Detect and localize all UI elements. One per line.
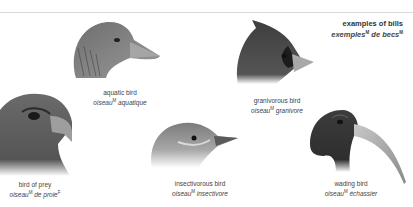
title-french: exemplesM de becsM [331, 28, 403, 39]
caption-insectivorous: insectivorous bird oiseauM insectivore [160, 180, 240, 198]
caption-aquatic: aquatic bird oiseauM aquatique [80, 89, 160, 107]
caption-bird-of-prey: bird of prey oiseauM de proieF [0, 181, 70, 199]
page-title: examples of bills exemplesM de becsM [331, 19, 403, 39]
warbler-head-icon [148, 118, 240, 170]
header-rule [0, 12, 413, 13]
eagle-head-icon [0, 90, 75, 178]
caption-wading: wading bird oiseauM échassier [320, 180, 382, 198]
goose-head-icon [68, 18, 163, 80]
caption-granivorous: granivorous bird oiseauM granivore [237, 97, 317, 115]
cardinal-head-icon [232, 18, 314, 86]
title-english: examples of bills [331, 19, 403, 28]
